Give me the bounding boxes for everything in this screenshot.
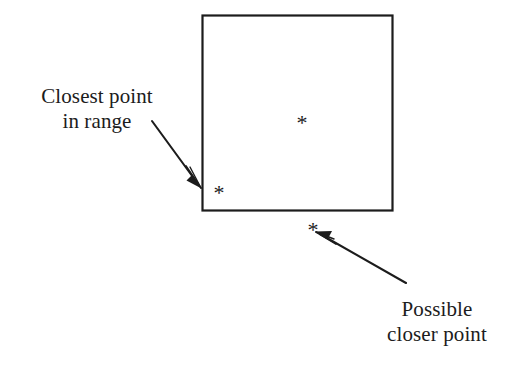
label-closest-point-line-1: Closest point — [18, 84, 176, 109]
possible-closer-arrow — [316, 231, 407, 283]
label-possible-closer-point: Possible closer point — [362, 297, 512, 347]
label-closest-point-in-range: Closest point in range — [18, 84, 176, 134]
label-possible-closer-line-2: closer point — [362, 322, 512, 347]
label-closest-point-line-2: in range — [18, 109, 176, 134]
point-marker-inside-center: * — [294, 112, 310, 134]
label-possible-closer-line-1: Possible — [362, 297, 512, 322]
point-marker-outside-below: * — [305, 219, 321, 241]
point-marker-inside-corner: * — [211, 182, 227, 204]
figure-canvas: * * * Closest point in range Possible cl… — [0, 0, 520, 375]
